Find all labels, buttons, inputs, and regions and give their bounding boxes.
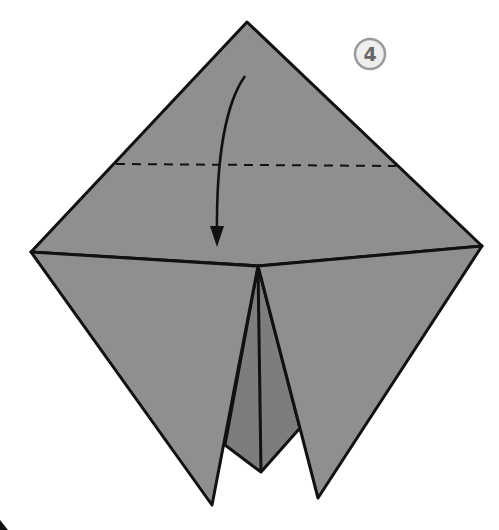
left-flap <box>31 252 258 505</box>
corner-artifact <box>0 520 8 530</box>
origami-diagram: 4 <box>0 0 499 530</box>
right-flap <box>258 246 482 498</box>
step-number-badge: 4 <box>355 39 385 69</box>
step-number: 4 <box>363 43 376 65</box>
top-triangle <box>31 22 482 266</box>
